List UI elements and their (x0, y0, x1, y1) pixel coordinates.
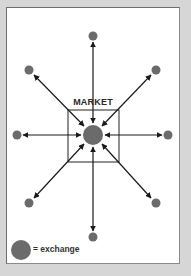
legend-exchange-dot (11, 240, 31, 260)
node-bottom-dot (89, 233, 98, 242)
arrow-bottom-left (34, 144, 84, 198)
market-label: MARKET (63, 97, 123, 107)
market-exchange-diagram (0, 0, 191, 276)
node-top-left-dot (25, 66, 34, 75)
legend-text: = exchange (33, 244, 80, 254)
node-right-dot (164, 131, 173, 140)
node-bottom-left-dot (25, 199, 34, 208)
node-top-right-dot (152, 66, 161, 75)
arrow-bottom-right (102, 144, 151, 198)
node-left-dot (13, 131, 22, 140)
central-exchange-dot (83, 125, 103, 145)
node-bottom-right-dot (152, 199, 161, 208)
node-top-dot (89, 32, 98, 41)
